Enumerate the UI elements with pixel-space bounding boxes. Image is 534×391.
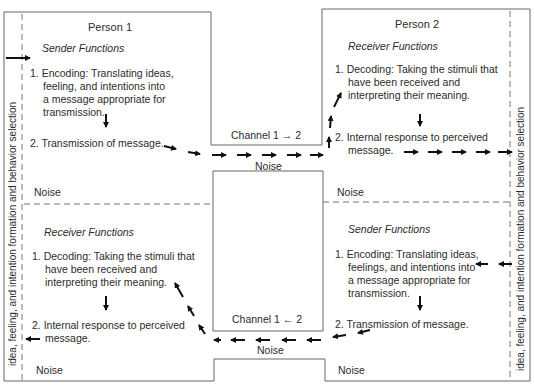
person2-receiver-heading: Receiver Functions bbox=[348, 40, 438, 53]
channel-top-label: Channel 1 → 2 bbox=[231, 129, 301, 142]
person2-noise-bottom: Noise bbox=[338, 364, 365, 377]
person2-title: Person 2 bbox=[395, 18, 439, 31]
channel-divider-box bbox=[213, 171, 323, 331]
person2-sender-step2: 2. Transmission of message. bbox=[335, 318, 469, 331]
person2-sender-heading: Sender Functions bbox=[348, 223, 430, 236]
channel-bottom-label: Channel 1 ← 2 bbox=[232, 313, 302, 326]
person1-receiver-heading: Receiver Functions bbox=[44, 226, 134, 239]
person1-noise-bottom: Noise bbox=[36, 364, 63, 377]
channel-bottom-noise: Noise bbox=[257, 344, 284, 357]
person1-noise-top: Noise bbox=[34, 186, 61, 199]
person1-title: Person 1 bbox=[88, 21, 132, 34]
person2-noise-top: Noise bbox=[337, 186, 364, 199]
person2-side-label: idea, feeling, and intention formation a… bbox=[515, 107, 526, 371]
person1-side-label: idea, feeling, and intention formation a… bbox=[7, 102, 18, 366]
channel-top-noise: Noise bbox=[255, 160, 282, 173]
person1-sender-step2: 2. Transmission of message. bbox=[30, 137, 164, 150]
person1-sender-heading: Sender Functions bbox=[42, 42, 124, 55]
